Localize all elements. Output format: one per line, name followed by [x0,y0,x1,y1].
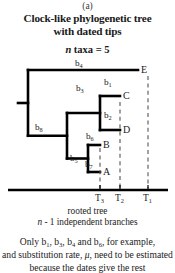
note-line-2: and substitution rate, μ, need to be est… [0,249,175,261]
taxa-value: taxa = 5 [71,44,109,55]
note-line-3: because the dates give the rest [0,262,175,273]
branch-label-b1: b1 [104,78,112,89]
note-line-2-a: and substitution rate, [2,249,85,260]
branch-label-b7: b7 [85,160,93,171]
taxa-count: n taxa = 5 [0,44,175,56]
branch-subscript: 3 [81,87,84,94]
note-text: , for example, [102,236,155,247]
branch-subscript: 8 [40,126,43,133]
note-text: , b [62,236,72,247]
branch-label-b5: b5 [70,154,78,165]
branch-label-b2: b2 [104,111,112,122]
branch-label-b4: b4 [75,59,83,70]
time-tick-label-T1: T1 [143,193,152,206]
branch-subscript: 4 [80,62,83,69]
branch-subscript: 6 [91,135,94,142]
panel-letter: (a) [0,1,175,12]
branch-label-b6: b6 [86,132,94,143]
time-tick-label-T2: T2 [115,193,124,206]
tip-label-D: D [123,125,130,135]
tip-label-C: C [123,91,130,101]
page-title: Clock-like phylogenetic tree with dated … [0,12,175,38]
caption-rest: - 1 independent branches [42,217,138,227]
branch-subscript: 7 [90,163,93,170]
branch-subscript: 5 [75,157,78,164]
time-subscript: 1 [149,197,152,204]
tip-label-A: A [103,167,110,177]
tip-label-E: E [141,65,147,75]
title-line-2: with dated tips [0,25,175,38]
time-subscript: 2 [121,197,124,204]
phylogenetic-tree: b4b8b3b1b2b5b6b7 ECDBA T3T2T1 [0,58,175,203]
tip-label-B: B [103,140,110,150]
caption-rooted-tree: rooted tree [0,206,175,217]
note-text: and b [75,236,98,247]
note-text: , b [49,236,59,247]
caption-independent-branches: n - 1 independent branches [0,217,175,228]
title-line-1: Clock-like phylogenetic tree [0,12,175,25]
branch-subscript: 2 [109,114,112,121]
branch-label-b8: b8 [35,123,43,134]
branch-subscript: 1 [109,81,112,88]
note-line-2-b: , need to be estimated [90,249,173,260]
time-tick-label-T3: T3 [95,193,104,206]
note-text: Only b [20,236,46,247]
figure-panel: (a) Clock-like phylogenetic tree with da… [0,0,175,273]
time-subscript: 3 [101,197,104,204]
branch-label-b3: b3 [76,84,84,95]
